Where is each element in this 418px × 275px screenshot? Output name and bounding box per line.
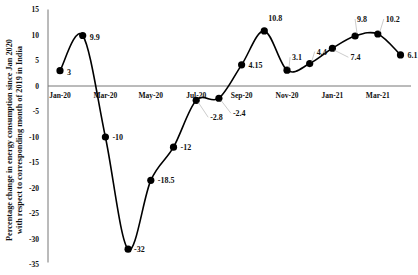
data-point — [238, 61, 245, 68]
label-leader-line — [221, 100, 231, 113]
y-tick-label: -25 — [29, 209, 39, 218]
y-tick-label: 0 — [35, 82, 39, 91]
x-tick-label: Mar-21 — [366, 91, 390, 100]
x-tick-label: Sep-20 — [231, 91, 253, 100]
data-label: 3 — [67, 68, 71, 77]
y-tick-label: -15 — [29, 158, 39, 167]
data-point — [374, 30, 381, 37]
x-tick-label: Nov-20 — [276, 91, 299, 100]
data-label: -2.4 — [233, 109, 246, 118]
data-label: -12 — [181, 143, 192, 152]
data-label: 9.9 — [90, 33, 100, 42]
y-axis-title: Percentage change in energy consumption … — [5, 39, 24, 241]
y-tick-label: 10 — [32, 31, 40, 40]
label-leader-line — [289, 57, 290, 68]
y-tick-label: -10 — [29, 133, 39, 142]
label-leader-line — [198, 102, 208, 117]
svg-text:Percentage change in energy co: Percentage change in energy consumption … — [5, 39, 14, 241]
data-point — [397, 51, 404, 58]
y-tick-label: -5 — [33, 107, 39, 116]
data-point — [56, 67, 63, 74]
y-tick-label: -20 — [29, 184, 39, 193]
label-leader-line — [334, 50, 348, 57]
x-tick-label: May-20 — [139, 91, 164, 100]
data-label: 7.4 — [350, 53, 360, 62]
data-point — [306, 60, 313, 67]
data-point — [102, 133, 109, 140]
data-point — [261, 27, 268, 34]
svg-text:with respect to corresponding: with respect to corresponding month of 2… — [15, 45, 24, 234]
y-tick-label: -30 — [29, 235, 39, 244]
data-label: -10 — [112, 133, 123, 142]
data-label: 4.4 — [317, 48, 327, 57]
data-label: 10.8 — [268, 14, 282, 23]
data-label: -18.5 — [158, 176, 175, 185]
data-label: 10.2 — [386, 15, 400, 24]
data-point — [283, 67, 290, 74]
data-label: 4.15 — [249, 61, 263, 70]
y-tick-label: 15 — [32, 5, 40, 14]
label-leader-line — [380, 19, 384, 32]
y-tick-label: 5 — [35, 56, 39, 65]
line-chart: 151050-5-10-15-20-25-30-35Jan-20Mar-20Ma… — [0, 0, 418, 275]
data-point — [352, 32, 359, 39]
x-tick-label: Jan-20 — [49, 91, 71, 100]
y-tick-label: -35 — [29, 260, 39, 269]
data-point — [79, 32, 86, 39]
data-point — [170, 144, 177, 151]
data-label: 3.1 — [292, 53, 302, 62]
data-point — [147, 177, 154, 184]
x-tick-label: Jan-21 — [322, 91, 344, 100]
data-label: -32 — [134, 245, 145, 254]
data-label: 6.1 — [408, 51, 418, 60]
data-line — [60, 31, 401, 250]
data-label: -2.8 — [210, 113, 223, 122]
data-label: 9.8 — [357, 15, 367, 24]
data-point — [125, 246, 132, 253]
